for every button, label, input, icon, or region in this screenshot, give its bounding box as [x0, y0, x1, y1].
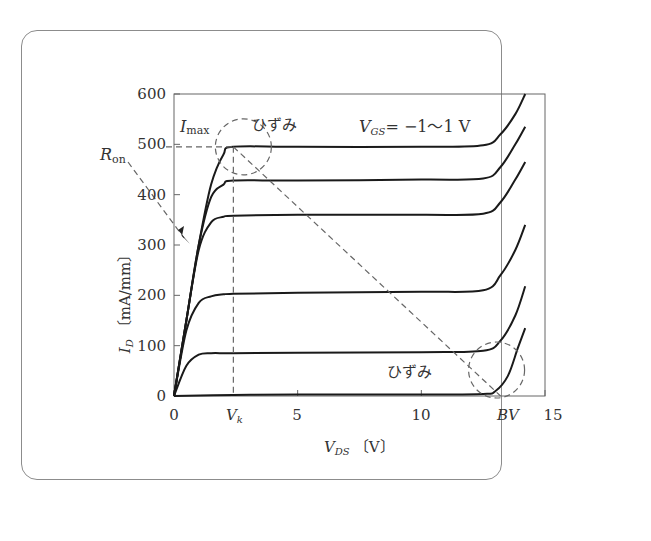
y-tick-labels: 0 100 200 300 400 500 600: [137, 85, 166, 405]
y-tick-500: 500: [137, 135, 166, 153]
vgs-range-label: VGS= −1〜1 V: [359, 117, 471, 137]
x-tick-10: 10: [411, 406, 430, 424]
distortion-label-top: ひずみ: [252, 116, 297, 134]
y-tick-300: 300: [137, 236, 166, 254]
iv-characteristic-chart: 0 100 200 300 400 500 600 0 5 10 15 Vk B…: [0, 0, 651, 541]
y-tick-600: 600: [137, 85, 166, 103]
load-line: [233, 147, 500, 396]
iv-curve-5: [174, 286, 525, 396]
bv-label: BV: [496, 406, 521, 424]
axis-ticks: [174, 94, 545, 396]
x-tick-5: 5: [292, 406, 302, 424]
x-tick-15: 15: [543, 406, 562, 424]
distortion-label-bottom: ひずみ: [387, 363, 432, 381]
y-tick-0: 0: [156, 387, 166, 405]
y-axis-title: ID〔mA/mm〕: [116, 247, 135, 355]
x-tick-0: 0: [169, 406, 179, 424]
plot-area: [174, 94, 545, 396]
imax-label: Imax: [179, 117, 210, 137]
vk-label: Vk: [226, 406, 243, 425]
curve-group: [174, 94, 525, 396]
x-axis-title: VDS〔V〕: [324, 438, 395, 457]
iv-curve-3: [174, 162, 525, 396]
iv-curve-4: [174, 225, 525, 396]
y-tick-100: 100: [137, 337, 166, 355]
annotation-overlays: [128, 119, 525, 398]
y-tick-400: 400: [137, 186, 166, 204]
ron-label: Ron: [99, 145, 126, 166]
ron-arrowhead-icon: [178, 226, 190, 244]
x-tick-labels: 0 5 10 15 Vk BV: [169, 406, 562, 425]
iv-curve-6: [174, 328, 525, 396]
y-tick-200: 200: [137, 286, 166, 304]
